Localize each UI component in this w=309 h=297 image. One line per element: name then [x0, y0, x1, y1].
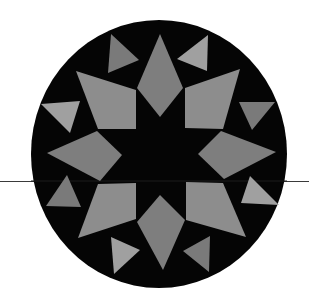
diagram-canvas [0, 0, 309, 297]
star-medallion-diagram [0, 0, 309, 297]
